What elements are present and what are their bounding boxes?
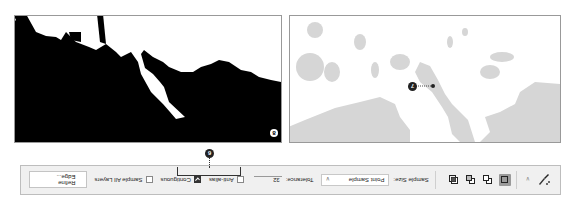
contiguous-label: Contiguous bbox=[161, 177, 191, 183]
subtract-selection-icon bbox=[466, 176, 475, 185]
contiguous-highlight-bracket bbox=[177, 167, 241, 176]
subtract-from-selection-button[interactable] bbox=[465, 174, 476, 186]
tolerance-label: Tolerance: bbox=[286, 177, 314, 183]
new-selection-button[interactable] bbox=[499, 174, 510, 186]
intersect-with-selection-button[interactable] bbox=[448, 174, 459, 186]
checkbox-checked-icon bbox=[194, 177, 201, 184]
checkbox-unchecked-icon bbox=[146, 177, 153, 184]
chevron-down-icon: ∨ bbox=[326, 177, 330, 184]
sample-size-label: Sample Size: bbox=[393, 177, 428, 183]
sample-size-value: Point Sample bbox=[349, 177, 385, 183]
image-regions-graphic bbox=[289, 15, 560, 142]
callout-number: 6 bbox=[208, 151, 211, 157]
checkbox-unchecked-icon bbox=[237, 177, 244, 184]
anti-alias-label: Anti-alias bbox=[209, 177, 234, 183]
tool-preset-chevron-down-icon[interactable]: ∨ bbox=[526, 177, 530, 184]
refine-edge-label: Refine Edge... bbox=[40, 174, 76, 186]
contiguous-checkbox[interactable]: Contiguous bbox=[161, 177, 201, 184]
quick-selection-tool-button[interactable] bbox=[533, 169, 554, 191]
anti-alias-checkbox[interactable]: Anti-alias bbox=[209, 177, 244, 184]
divider bbox=[435, 171, 436, 189]
figure-stage: ∨ Sample Size: Point Sample ∨ Tolerance:… bbox=[0, 0, 571, 202]
callout-line-6 bbox=[209, 158, 210, 168]
options-toolbar: ∨ Sample Size: Point Sample ∨ Tolerance:… bbox=[20, 165, 561, 195]
tolerance-input[interactable]: 32 bbox=[254, 177, 282, 184]
selection-mask-graphic bbox=[14, 15, 281, 142]
quick-selection-brush-icon bbox=[537, 173, 551, 187]
callout-badge-7: 7 bbox=[408, 82, 417, 91]
callout-number: 7 bbox=[411, 84, 414, 90]
refine-edge-button[interactable]: Refine Edge... bbox=[29, 172, 87, 189]
image-panel: 7 bbox=[289, 15, 561, 143]
sample-size-select[interactable]: Point Sample ∨ bbox=[321, 174, 389, 186]
intersect-selection-icon bbox=[449, 176, 458, 185]
callout-badge-8: 8 bbox=[270, 129, 278, 137]
callout-badge-6: 6 bbox=[205, 149, 214, 158]
add-selection-icon bbox=[483, 176, 492, 185]
mask-panel: 8 bbox=[14, 15, 282, 143]
sample-all-layers-label: Sample All Layers bbox=[95, 177, 143, 183]
divider bbox=[517, 171, 518, 189]
callout-number: 8 bbox=[272, 130, 275, 136]
sample-all-layers-checkbox[interactable]: Sample All Layers bbox=[95, 177, 153, 184]
new-selection-icon bbox=[500, 176, 509, 185]
add-to-selection-button[interactable] bbox=[482, 174, 493, 186]
